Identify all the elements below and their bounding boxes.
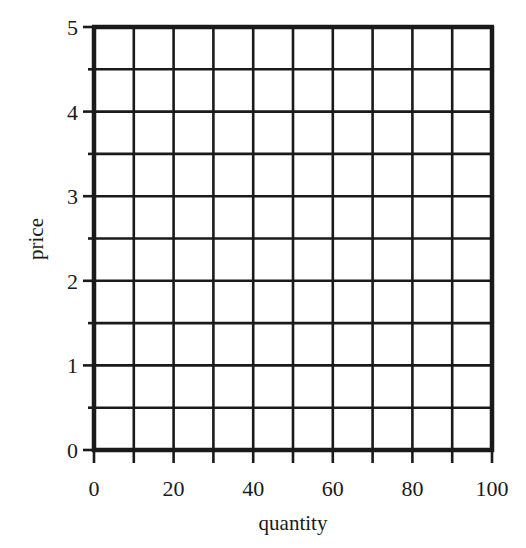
y-tick-label: 0 — [67, 438, 78, 463]
y-tick-label: 3 — [67, 184, 78, 209]
x-tick-label: 100 — [476, 476, 509, 501]
x-tick-label: 20 — [163, 476, 185, 501]
x-tick-label: 80 — [401, 476, 423, 501]
grid-lines — [94, 27, 492, 450]
x-tick-label: 60 — [322, 476, 344, 501]
y-tick-labels: 012345 — [67, 15, 78, 463]
y-tick-label: 4 — [67, 100, 78, 125]
y-axis-label: price — [24, 218, 48, 260]
x-tick-labels: 020406080100 — [89, 476, 509, 501]
x-tick-label: 0 — [89, 476, 100, 501]
x-tick-label: 40 — [242, 476, 264, 501]
y-tick-label: 1 — [67, 353, 78, 378]
axis-ticks — [83, 27, 492, 463]
y-tick-label: 2 — [67, 269, 78, 294]
y-tick-label: 5 — [67, 15, 78, 40]
x-axis-label: quantity — [259, 511, 328, 535]
price-quantity-chart: 020406080100 012345 quantity price — [0, 0, 526, 548]
